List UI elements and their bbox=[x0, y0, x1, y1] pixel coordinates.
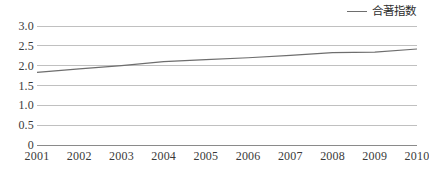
x-tick-label: 2010 bbox=[405, 149, 429, 163]
gridlines-group bbox=[37, 26, 417, 145]
data-line-series-1 bbox=[37, 49, 417, 72]
x-tick-label: 2008 bbox=[320, 149, 345, 163]
x-tick-label: 2001 bbox=[25, 149, 50, 163]
x-tick-label: 2006 bbox=[236, 149, 261, 163]
x-tick-label: 2003 bbox=[109, 149, 134, 163]
y-tick-label: 2.5 bbox=[2, 40, 34, 52]
y-tick-label: 1.5 bbox=[2, 80, 34, 92]
x-tick-label: 2002 bbox=[67, 149, 92, 163]
y-tick-label: 3.0 bbox=[2, 20, 34, 32]
y-tick-label: 1.0 bbox=[2, 99, 34, 111]
data-series-group bbox=[37, 49, 417, 72]
x-tick-label: 2004 bbox=[151, 149, 176, 163]
x-tick-label: 2009 bbox=[362, 149, 387, 163]
y-tick-label: 0.5 bbox=[2, 119, 34, 131]
x-tick-label: 2007 bbox=[278, 149, 303, 163]
x-tick-label: 2005 bbox=[193, 149, 218, 163]
x-axis-labels: 2001200220032004200520062007200820092010 bbox=[0, 149, 424, 171]
y-tick-label: 2.0 bbox=[2, 60, 34, 72]
